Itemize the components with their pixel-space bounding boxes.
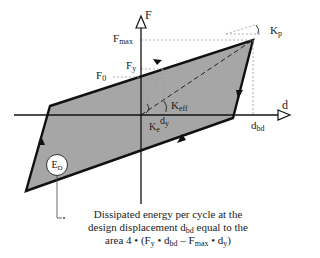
energy-dissipated-badge: ED xyxy=(46,154,68,176)
arrow-top-icon xyxy=(153,59,162,65)
d-bd-label: dbd xyxy=(251,120,265,133)
c3-pre: area 4 • (F xyxy=(105,234,151,246)
k-eff-base: K xyxy=(171,99,179,111)
k-eff-label: Keff xyxy=(171,100,188,113)
k-p-label: Kp xyxy=(270,25,282,38)
k-p-angle-arc xyxy=(256,25,259,34)
f-max-sub: max xyxy=(119,37,133,46)
f-axis-label-text: F xyxy=(145,8,152,22)
f-0-sub: 0 xyxy=(102,74,106,83)
d-y-label: dy xyxy=(160,116,169,128)
energy-caption: Dissipated energy per cycle at the desig… xyxy=(58,208,278,247)
d-axis-label-text: d xyxy=(282,98,288,112)
c3-mid1: • d xyxy=(155,234,170,246)
caption-line-1: Dissipated energy per cycle at the xyxy=(58,208,278,221)
c3-sub3: max xyxy=(195,239,209,248)
f-y-label: Fy xyxy=(126,60,136,73)
caption-line-2-pre: design displacement d xyxy=(88,221,186,233)
c3-mid2: – F xyxy=(178,234,195,246)
f-y-sub: y xyxy=(132,64,136,73)
caption-line-2: design displacement dbd equal to the xyxy=(58,221,278,234)
k-p-base: K xyxy=(270,24,278,36)
d-axis-label: d xyxy=(282,99,288,111)
f-axis-label: F xyxy=(145,9,152,21)
ed-sub: D xyxy=(58,164,63,172)
c3-sub2: bd xyxy=(170,239,178,248)
caption-line-2-post: equal to the xyxy=(194,221,248,233)
d-y-sub: y xyxy=(165,119,169,128)
k-p-sub: p xyxy=(278,29,282,38)
f-0-label: F0 xyxy=(96,70,106,83)
d-bd-sub: bd xyxy=(257,124,265,133)
k-eff-sub: eff xyxy=(179,104,188,113)
k-e-label: Ke xyxy=(149,122,160,134)
c3-post: ) xyxy=(227,234,231,246)
caption-line-3: area 4 • (Fy • dbd – Fmax • dy) xyxy=(58,234,278,247)
f-max-label: Fmax xyxy=(113,33,133,46)
c3-mid3: • d xyxy=(208,234,223,246)
